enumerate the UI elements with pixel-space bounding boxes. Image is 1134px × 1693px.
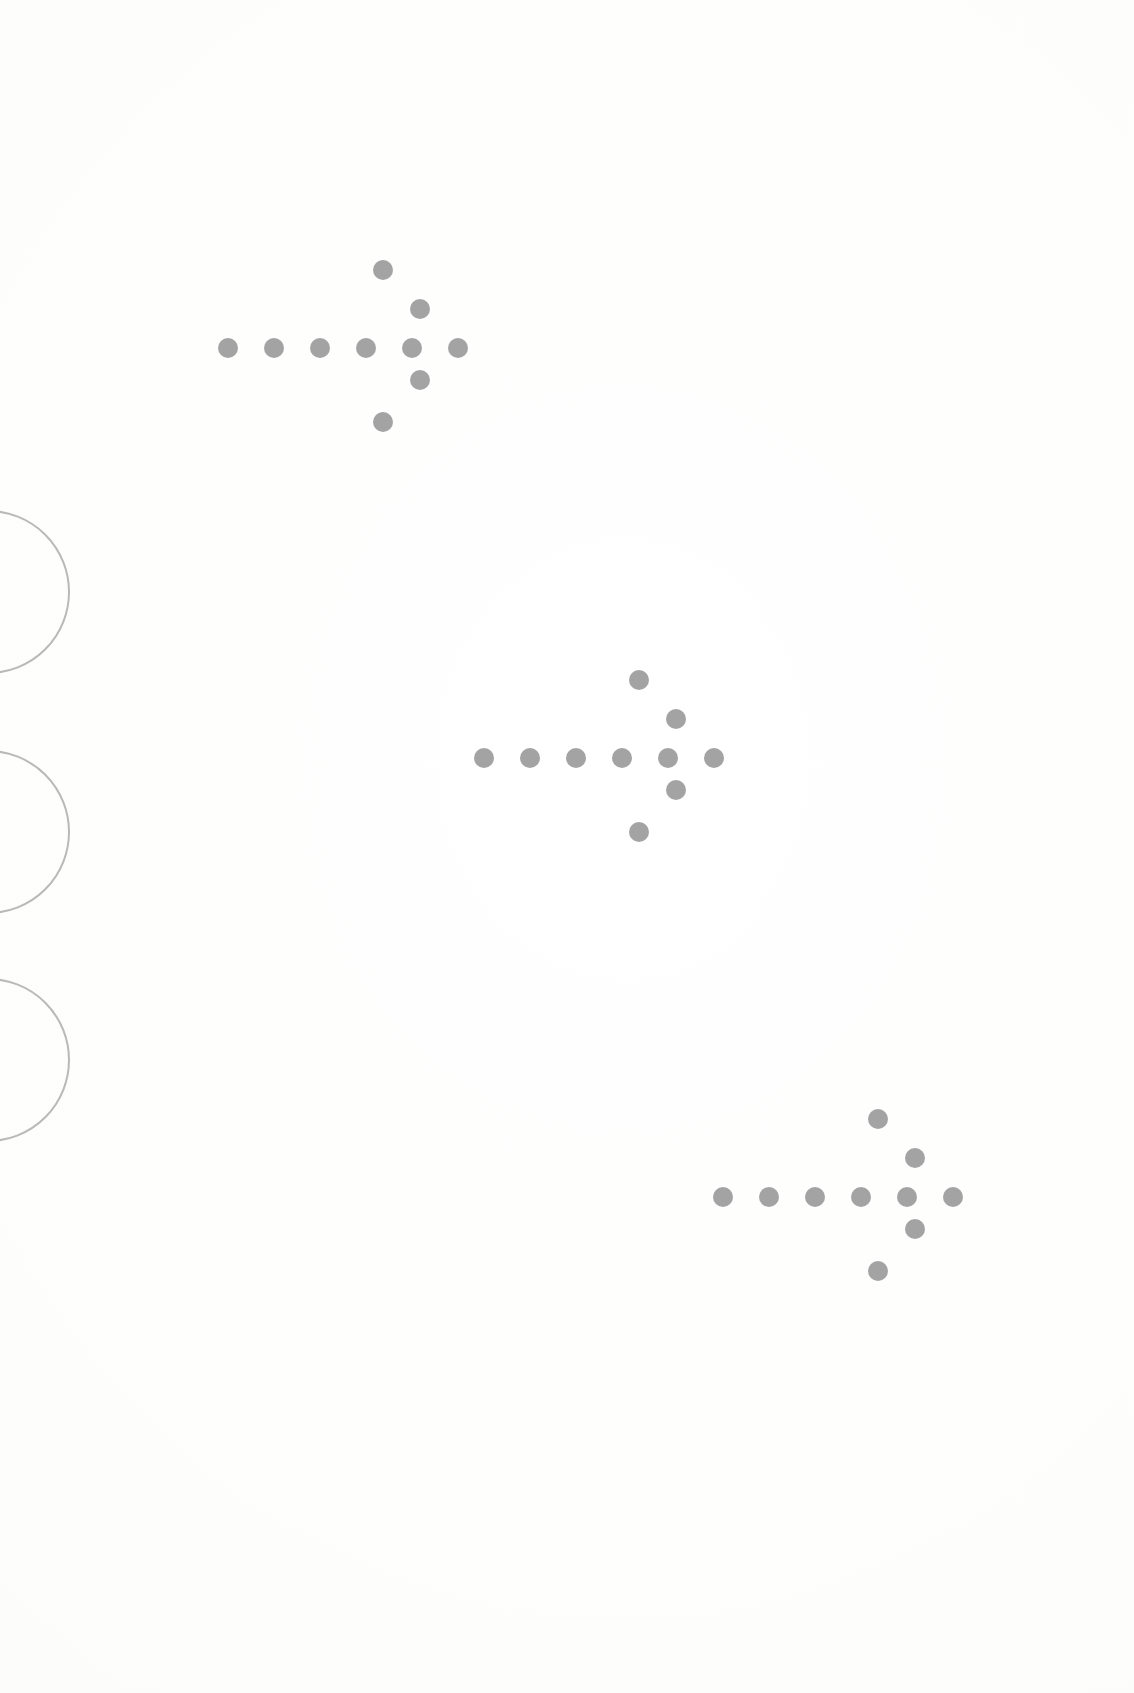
arrow-shaft-dot [805, 1187, 825, 1207]
arrow-head-dot [666, 780, 686, 800]
edge-circle-1 [0, 510, 70, 674]
edge-circle-3 [0, 978, 70, 1142]
arrow-shaft-dot [566, 748, 586, 768]
arrow-head-dot [629, 670, 649, 690]
arrow-head-dot [410, 370, 430, 390]
arrow-head-dot [373, 260, 393, 280]
arrow-shaft-dot [658, 748, 678, 768]
arrow-head-dot [666, 709, 686, 729]
arrow-shaft-dot [851, 1187, 871, 1207]
arrow-shaft-dot [218, 338, 238, 358]
arrow-shaft-dot [474, 748, 494, 768]
arrow-head-dot [868, 1261, 888, 1281]
edge-circle-2 [0, 750, 70, 914]
arrow-shaft-dot [264, 338, 284, 358]
arrow-head-dot [373, 412, 393, 432]
arrow-shaft-dot [520, 748, 540, 768]
page-title: Scanned page with dotted arrow marks [0, 0, 1, 1]
arrow-shaft-dot [943, 1187, 963, 1207]
arrow-head-dot [629, 822, 649, 842]
page-canvas: Scanned page with dotted arrow marks Bla… [0, 0, 1134, 1693]
arrow-shaft-dot [402, 338, 422, 358]
arrow-shaft-dot [448, 338, 468, 358]
arrow-shaft-dot [310, 338, 330, 358]
arrow-shaft-dot [759, 1187, 779, 1207]
arrow-head-dot [905, 1219, 925, 1239]
arrow-head-dot [905, 1148, 925, 1168]
arrow-shaft-dot [612, 748, 632, 768]
page-description: Blank scanned sheet bearing three identi… [0, 0, 1, 1]
paper-background [0, 0, 1134, 1693]
arrow-shaft-dot [713, 1187, 733, 1207]
arrow-shaft-dot [704, 748, 724, 768]
arrow-shaft-dot [897, 1187, 917, 1207]
edge-circle-group [0, 0, 140, 1693]
arrow-shaft-dot [356, 338, 376, 358]
arrow-head-dot [410, 299, 430, 319]
arrow-head-dot [868, 1109, 888, 1129]
